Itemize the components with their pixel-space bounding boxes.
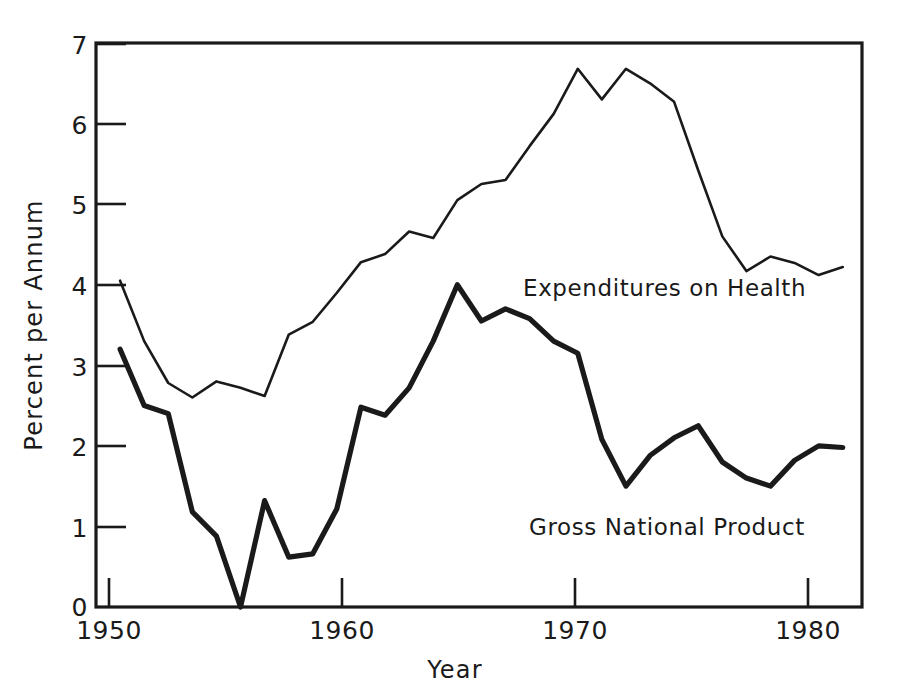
series-line-expenditures-on-health	[120, 69, 843, 398]
series-line-gross-national-product	[120, 285, 843, 607]
y-tick-label-5: 5	[72, 191, 88, 220]
y-tick-label-6: 6	[72, 111, 88, 140]
y-tick-label-1: 1	[72, 514, 88, 543]
y-axis-tick-labels: 7 6 5 4 3 2 1 0	[72, 31, 88, 622]
y-tick-label-4: 4	[72, 272, 88, 301]
y-tick-label-7: 7	[72, 31, 88, 60]
x-axis-title: Year	[426, 656, 483, 684]
y-axis-title: Percent per Annum	[20, 199, 48, 450]
x-axis-ticks	[109, 578, 808, 607]
chart-canvas: 7 6 5 4 3 2 1 0 1950 1960 1970 1980 Year…	[0, 0, 897, 689]
x-tick-label-1950: 1950	[76, 616, 142, 645]
x-axis-tick-labels: 1950 1960 1970 1980	[76, 616, 841, 645]
y-tick-label-3: 3	[72, 353, 88, 382]
x-tick-label-1970: 1970	[542, 616, 608, 645]
chart-figure: 7 6 5 4 3 2 1 0 1950 1960 1970 1980 Year…	[0, 0, 897, 689]
series-annotation-expenditures-on-health: Expenditures on Health	[523, 275, 806, 301]
x-tick-label-1980: 1980	[775, 616, 841, 645]
series-annotation-gross-national-product: Gross National Product	[529, 514, 805, 540]
y-tick-label-2: 2	[72, 433, 88, 462]
x-tick-label-1960: 1960	[309, 616, 375, 645]
